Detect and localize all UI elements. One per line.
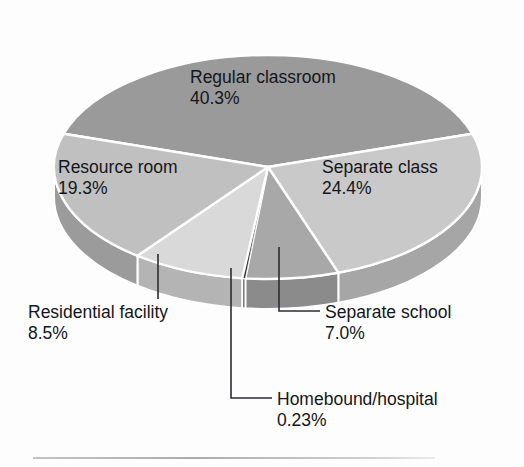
label-regular-classroom-name: Regular classroom [190,67,336,87]
pie-chart-figure: Regular classroom 40.3% Resource room 19… [0,0,524,467]
bottom-divider-rule [33,457,435,459]
label-residential-facility-name: Residential facility [28,302,168,322]
label-homebound-hospital-pct: 0.23% [277,410,327,430]
label-regular-classroom-pct: 40.3% [190,88,240,108]
label-separate-school-pct: 7.0% [325,323,365,343]
label-separate-class-pct: 24.4% [322,178,372,198]
pie-chart-svg: Regular classroom 40.3% Resource room 19… [0,0,524,467]
label-separate-school-name: Separate school [325,302,451,322]
callout-labels: Residential facility 8.5% Separate schoo… [28,302,451,430]
label-resource-room-name: Resource room [58,157,178,177]
label-homebound-hospital-name: Homebound/hospital [277,389,438,409]
label-separate-class-name: Separate class [322,157,438,177]
label-resource-room-pct: 19.3% [58,178,108,198]
label-residential-facility-pct: 8.5% [28,323,68,343]
